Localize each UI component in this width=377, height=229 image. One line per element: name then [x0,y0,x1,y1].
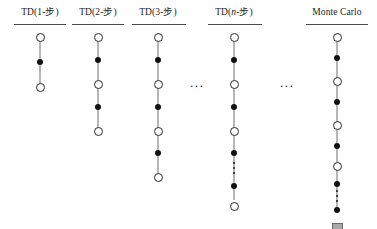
backup-chain-td-3-step [118,33,198,223]
vertical-ellipsis-icon [336,190,338,205]
action-node [155,57,161,63]
terminal-node [332,223,343,229]
column-label-prefix: TD(3- [139,7,163,17]
state-node [36,83,45,92]
action-node [334,55,340,61]
action-node [231,104,237,110]
column-label-prefix: Monte Carlo [312,7,361,17]
action-node [155,104,161,110]
column-underline-td-2-step [72,24,124,25]
action-node [95,57,101,63]
state-node [230,80,239,89]
state-node [36,33,45,42]
backup-diagram: TD(1-步)TD(2-步)TD(3-步)TD(n-步)Monte Carlo.… [0,0,377,229]
state-node [333,33,342,42]
state-node [94,127,103,136]
column-underline-td-1-step [14,24,66,25]
column-label-td-n-step: TD(n-步) [194,7,274,18]
column-underline-td-3-step [132,24,186,25]
column-label-suffix: 步) [45,7,58,17]
state-node [94,80,103,89]
column-label-prefix: TD(2- [79,7,103,17]
state-node [333,77,342,86]
state-node [333,162,342,171]
column-label-prefix: TD(1- [21,7,45,17]
action-node [155,150,161,156]
action-node [334,181,340,187]
state-node [230,127,239,136]
ellipsis-between-td3-tdn: ... [190,78,205,88]
action-node [37,59,43,65]
column-label-suffix: 步) [103,7,116,17]
state-node [154,80,163,89]
action-node [334,99,340,105]
action-node [231,57,237,63]
state-node [154,173,163,182]
backup-chain-monte-carlo [297,33,377,223]
action-node [231,150,237,156]
ellipsis-between-tdn-mc: ... [280,78,295,88]
state-node [230,33,239,42]
action-node [95,104,101,110]
column-label-monte-carlo: Monte Carlo [297,7,377,18]
action-node [231,183,237,189]
column-underline-monte-carlo [306,24,368,25]
state-node [154,33,163,42]
action-node [334,207,340,213]
vertical-ellipsis-icon [233,162,235,177]
state-node [94,33,103,42]
column-label-td-3-step: TD(3-步) [118,7,198,18]
column-label-prefix: TD( [215,7,231,17]
action-node [334,143,340,149]
column-label-suffix: -步) [236,7,253,17]
column-label-suffix: 步) [163,7,176,17]
state-node [154,127,163,136]
state-node [230,202,239,211]
state-node [333,121,342,130]
backup-chain-td-n-step [194,33,274,223]
column-underline-td-n-step [208,24,262,25]
